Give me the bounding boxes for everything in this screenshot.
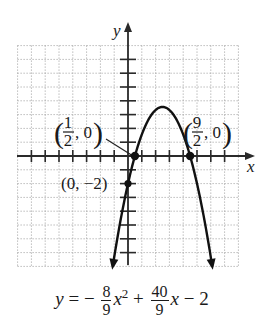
label-point-nine-halves: ( 9 2 , 0 ) <box>183 113 232 150</box>
svg-text:, 0: , 0 <box>204 123 221 142</box>
point-y-intercept <box>124 180 131 187</box>
svg-text:, 0: , 0 <box>75 123 92 142</box>
y-axis-label: y <box>111 21 121 40</box>
svg-text:1: 1 <box>64 113 73 132</box>
point-x-intercept-1 <box>131 152 139 160</box>
svg-text:): ) <box>222 116 232 150</box>
svg-text:): ) <box>93 116 103 150</box>
y-axis-arrow-icon <box>124 22 132 32</box>
curve-arrow-right-icon <box>207 258 216 270</box>
parabola-graph: y x ( 1 2 , 0 ) ( 9 2 , 0 ) (0, −2) <box>0 0 264 331</box>
label-point-half: ( 1 2 , 0 ) <box>54 113 103 150</box>
svg-text:(: ( <box>54 116 64 150</box>
equation-caption: y = − 89x2 + 409x − 2 <box>0 283 264 318</box>
curve-arrow-left-icon <box>109 258 118 270</box>
point-x-intercept-2 <box>186 152 194 160</box>
svg-text:2: 2 <box>193 131 202 150</box>
svg-text:2: 2 <box>64 131 73 150</box>
x-axis-label: x <box>246 157 255 176</box>
axes <box>17 22 255 265</box>
svg-text:(: ( <box>183 116 193 150</box>
svg-text:9: 9 <box>193 113 202 132</box>
label-point-y-intercept: (0, −2) <box>61 174 107 193</box>
